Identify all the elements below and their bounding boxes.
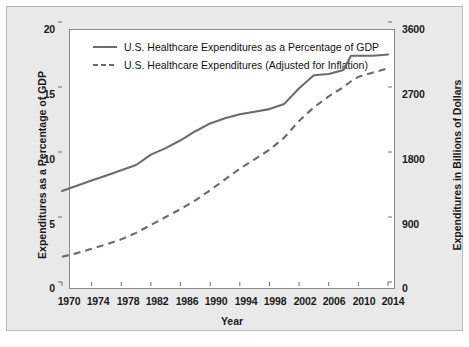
chart-figure: 20 15 10 5 0 3600 2700 1800 900 0 1970 1… [0, 0, 469, 347]
chart-legend: U.S. Healthcare Expenditures as a Percen… [93, 39, 363, 75]
legend-dashed-line-icon [93, 59, 117, 71]
legend-entry-inflation-adjusted: U.S. Healthcare Expenditures (Adjusted f… [93, 57, 363, 73]
ytick-right-2700: 2700 [402, 88, 448, 100]
legend-label-gdp-percentage: U.S. Healthcare Expenditures as a Percen… [124, 41, 379, 53]
legend-entry-gdp-percentage: U.S. Healthcare Expenditures as a Percen… [93, 39, 363, 55]
ytick-right-900: 900 [402, 218, 448, 230]
xtick-2014: 2014 [373, 295, 413, 307]
y-axis-title-left: Expenditures as a Percentage of GDP [36, 50, 48, 280]
ytick-left-10: 10 [15, 153, 55, 165]
ytick-left-15: 15 [15, 88, 55, 100]
legend-solid-line-icon [93, 41, 117, 53]
figure-panel: 20 15 10 5 0 3600 2700 1800 900 0 1970 1… [6, 6, 463, 331]
y-axis-title-right: Expenditures in Billions of Dollars [451, 50, 463, 280]
x-axis-title: Year [69, 315, 395, 327]
legend-label-inflation-adjusted: U.S. Healthcare Expenditures (Adjusted f… [124, 59, 368, 71]
ytick-left-20: 20 [15, 23, 55, 35]
ytick-right-1800: 1800 [402, 153, 448, 165]
ytick-right-3600: 3600 [402, 23, 448, 35]
ytick-right-0: 0 [402, 282, 448, 294]
ytick-left-0: 0 [15, 282, 55, 294]
ytick-left-5: 5 [15, 218, 55, 230]
